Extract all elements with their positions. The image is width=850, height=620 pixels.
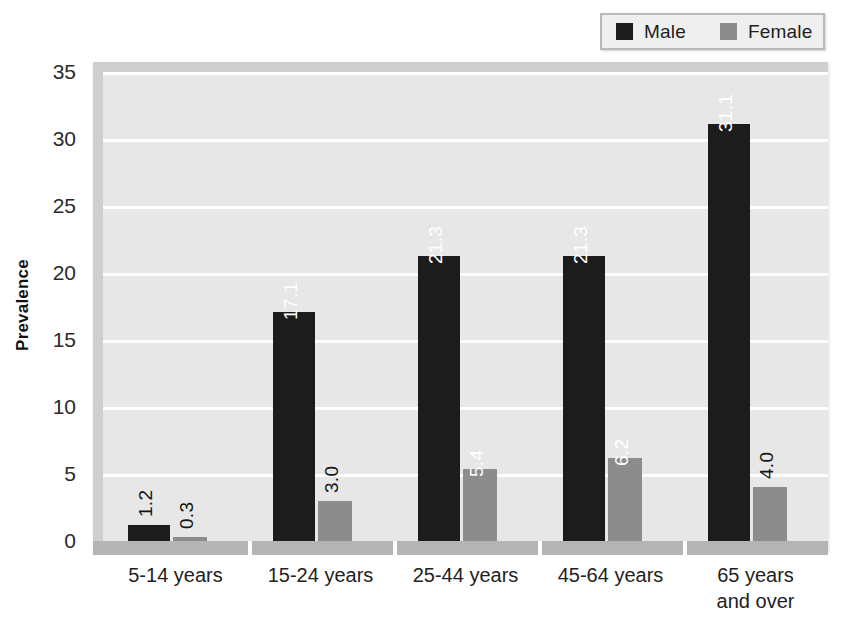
bar-value-label: 21.3: [425, 225, 447, 263]
bar-male-15-24-years: [273, 312, 315, 541]
plot-area: 1.20.317.13.021.35.421.36.231.14.0: [103, 72, 828, 541]
y-axis-tick-5: 5: [34, 462, 76, 486]
bar-female-15-24-years: [318, 501, 352, 541]
x-axis-tick-label: 45-64 years: [538, 562, 683, 588]
bar-group: 1.20.3: [103, 72, 248, 541]
category-separator: [538, 541, 542, 555]
bar-male-5-14-years: [128, 525, 170, 541]
bar-male-25-44-years: [418, 256, 460, 541]
legend-swatch-female-icon: [720, 23, 737, 40]
x-axis-tick-label: 25-44 years: [393, 562, 538, 588]
legend-swatch-male-icon: [616, 23, 633, 40]
x-axis-tick-line: 5-14 years: [103, 562, 248, 588]
x-axis-band: [93, 541, 828, 555]
bar-value-label: 17.1: [280, 282, 302, 320]
x-axis-tick-label: 15-24 years: [248, 562, 393, 588]
y-axis-tick-30: 30: [34, 127, 76, 151]
x-axis-tick-label: 5-14 years: [103, 562, 248, 588]
bar-value-label: 4.0: [756, 452, 778, 479]
x-axis-tick-line: 45-64 years: [538, 562, 683, 588]
y-axis-tick-25: 25: [34, 194, 76, 218]
chart-legend: Male Female: [600, 13, 825, 50]
bar-value-label: 3.0: [321, 465, 343, 492]
x-axis-tick-line: and over: [683, 588, 828, 614]
legend-label-male: Male: [644, 21, 686, 43]
bar-value-label: 31.1: [715, 94, 737, 132]
bar-value-label: 5.4: [466, 449, 488, 476]
y-axis-tick-labels: 05101520253035: [34, 0, 76, 620]
bar-group: 31.14.0: [683, 72, 828, 541]
y-axis-tick-0: 0: [34, 529, 76, 553]
bar-group: 21.36.2: [538, 72, 683, 541]
bar-chart-figure: Male Female Prevalence 05101520253035 1.…: [0, 0, 850, 620]
bar-value-label: 21.3: [570, 225, 592, 263]
bar-group: 17.13.0: [248, 72, 393, 541]
category-separator: [683, 541, 687, 555]
bar-male-45-64-years: [563, 256, 605, 541]
category-separator: [248, 541, 252, 555]
x-axis-tick-line: 25-44 years: [393, 562, 538, 588]
legend-label-female: Female: [748, 21, 813, 43]
legend-item-male: Male: [616, 21, 686, 43]
legend-item-female: Female: [720, 21, 813, 43]
y-axis-tick-35: 35: [34, 60, 76, 84]
bar-value-label: 6.2: [611, 439, 633, 466]
category-separator: [393, 541, 397, 555]
bar-male-65-years-and-over: [708, 124, 750, 541]
y-axis-tick-10: 10: [34, 395, 76, 419]
bar-value-label: 1.2: [135, 490, 157, 517]
y-axis-label: Prevalence: [13, 240, 33, 370]
bar-female-45-64-years: [608, 458, 642, 541]
bar-group: 21.35.4: [393, 72, 538, 541]
x-axis-tick-labels: 5-14 years15-24 years25-44 years45-64 ye…: [103, 562, 828, 620]
x-axis-tick-line: 15-24 years: [248, 562, 393, 588]
x-axis-tick-line: 65 years: [683, 562, 828, 588]
bar-female-65-years-and-over: [753, 487, 787, 541]
bar-female-25-44-years: [463, 469, 497, 541]
bar-value-label: 0.3: [176, 502, 198, 529]
y-axis-tick-20: 20: [34, 261, 76, 285]
y-axis-tick-15: 15: [34, 328, 76, 352]
x-axis-tick-label: 65 yearsand over: [683, 562, 828, 614]
